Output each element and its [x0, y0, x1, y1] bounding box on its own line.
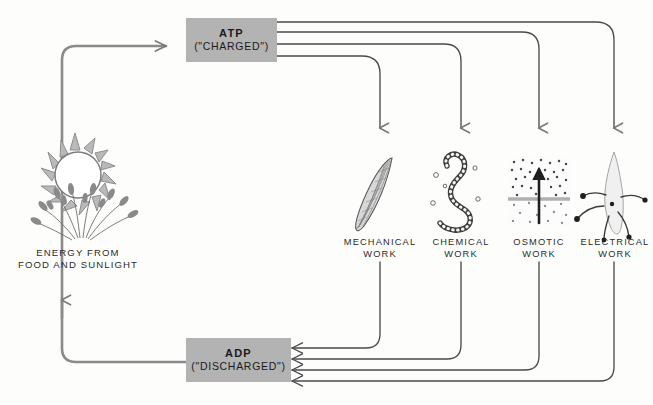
work-caption-osmotic: OSMOTIC WORK — [501, 237, 577, 260]
work-caption-chemical: CHEMICAL WORK — [422, 237, 500, 260]
membrane-transport-icon — [508, 156, 570, 226]
neuron-icon — [574, 152, 648, 242]
work-caption-electrical: ELECTRICAL WORK — [577, 237, 653, 260]
work-caption-mechanical: MECHANICAL WORK — [338, 237, 422, 260]
work-icons-layer — [0, 0, 653, 405]
diagram-canvas: ATP ("CHARGED") ADP ("DISCHARGED") — [0, 0, 653, 405]
polymer-chain-icon — [431, 154, 480, 230]
muscle-fiber-icon — [356, 158, 392, 231]
